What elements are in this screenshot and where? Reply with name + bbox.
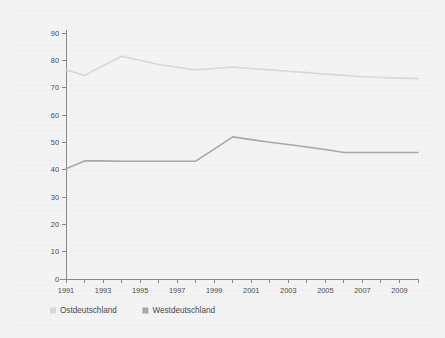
x-tick-label: 2001: [243, 286, 259, 295]
y-tick-label: 10: [51, 247, 59, 256]
y-tick-label: 40: [51, 165, 59, 174]
x-tick-label: 2003: [280, 286, 296, 295]
line-chart-plot: 0102030405060708090 19911993199519971999…: [0, 0, 445, 338]
series-line-westdeutschland: [66, 137, 418, 169]
y-tick-label: 50: [51, 138, 59, 147]
x-tick-label: 1997: [169, 286, 185, 295]
y-tick-label: 20: [51, 220, 59, 229]
x-axis: 1991199319951997199920012003200520072009: [58, 279, 418, 295]
x-tick-label: 2009: [391, 286, 407, 295]
x-tick-label: 1995: [132, 286, 148, 295]
chart-legend: OstdeutschlandWestdeutschland: [50, 306, 216, 315]
y-tick-label: 30: [51, 193, 59, 202]
legend-swatch: [142, 308, 148, 314]
y-tick-label: 60: [51, 111, 59, 120]
y-tick-label: 70: [51, 83, 59, 92]
y-tick-label: 0: [55, 275, 59, 284]
data-series-group: [66, 56, 418, 169]
y-tick-label: 80: [51, 56, 59, 65]
chart-figure: 0102030405060708090 19911993199519971999…: [0, 0, 445, 338]
legend-label: Ostdeutschland: [60, 306, 117, 315]
legend-swatch: [50, 308, 56, 314]
legend-label: Westdeutschland: [152, 306, 215, 315]
y-axis: 0102030405060708090: [51, 29, 66, 284]
y-tick-label: 90: [51, 29, 59, 38]
series-line-ostdeutschland: [66, 56, 418, 78]
x-tick-label: 2005: [317, 286, 333, 295]
x-tick-label: 1999: [206, 286, 222, 295]
x-tick-label: 1993: [95, 286, 111, 295]
x-tick-label: 2007: [354, 286, 370, 295]
x-tick-label: 1991: [58, 286, 74, 295]
